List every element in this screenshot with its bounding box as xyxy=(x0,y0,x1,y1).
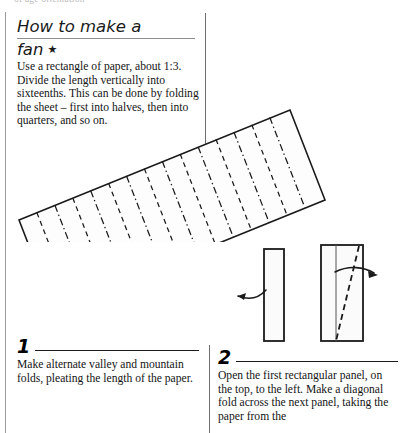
page-root: of age orientation How to make a fan★ Us… xyxy=(0,0,404,433)
pleated-rectangle-diagram xyxy=(0,92,340,242)
cut-off-top-text: of age orientation xyxy=(14,0,194,4)
step-1-block: 1 Make alternate valley and mountain fol… xyxy=(17,337,199,385)
step-2-number: 2 xyxy=(218,348,231,366)
title-line-1: How to make a xyxy=(17,17,197,37)
paper-outline xyxy=(19,110,325,242)
step-1-rule xyxy=(35,350,199,351)
two-panel-fold-diagram xyxy=(222,238,398,350)
title-underline-rule xyxy=(17,38,195,39)
step-1-header: 1 xyxy=(17,337,199,355)
difficulty-star-icon: ★ xyxy=(47,43,57,56)
left-panel-rect xyxy=(264,249,284,341)
step2-divider-rule xyxy=(209,345,210,433)
step-1-text: Make alternate valley and mountain folds… xyxy=(17,358,199,385)
page-title: How to make a fan★ xyxy=(17,17,197,60)
step-1-number: 1 xyxy=(17,337,30,355)
title-line-2-wrap: fan★ xyxy=(17,40,197,60)
left-fold-arrow-icon xyxy=(238,290,266,300)
step-2-block: 2 Open the first rectangular panel, on t… xyxy=(218,348,398,423)
step-2-rule xyxy=(236,361,398,362)
right-panel-rect xyxy=(321,245,363,341)
step-2-header: 2 xyxy=(218,348,398,366)
title-line-2: fan xyxy=(17,40,43,59)
step-2-text: Open the first rectangular panel, on the… xyxy=(218,369,398,423)
